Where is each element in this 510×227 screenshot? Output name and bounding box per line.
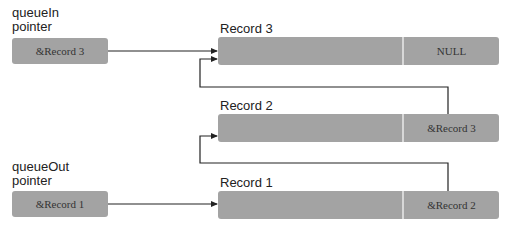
record-1-to-record-2-arrow [200,136,448,191]
record-2-to-record-3-arrow [200,59,448,114]
connector-arrows [0,0,510,227]
linked-list-queue-diagram: queueIn pointer &Record 3 queueOut point… [0,0,510,227]
